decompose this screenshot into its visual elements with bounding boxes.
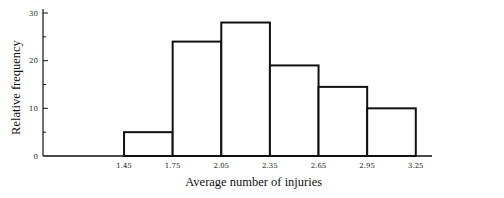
y-tick-label: 20 [29,57,38,65]
histogram-bar [270,65,319,156]
y-tick-label: 10 [29,105,38,113]
histogram-bars [43,23,432,156]
x-tick-label: 2.95 [359,162,375,170]
y-tick-label: 0 [34,153,38,161]
histogram-chart: 0102030 1.451.752.052.352.652.953.25 Rel… [0,0,504,198]
x-tick-label: 1.75 [165,162,181,170]
x-tick-label: 1.45 [116,162,132,170]
x-tick-label: 3.25 [408,162,424,170]
y-tick-label: 30 [29,10,38,18]
y-axis-label: Relative frequency [9,39,23,134]
histogram-bar [367,108,416,156]
y-ticks: 0102030 [29,10,48,161]
histogram-bar [319,87,368,156]
x-axis-label: Average number of injuries [185,175,322,189]
x-tick-label: 2.65 [311,162,327,170]
x-tick-label: 2.05 [213,162,229,170]
histogram-bar [124,132,173,156]
histogram-bar [221,23,270,156]
x-tick-label: 2.35 [262,162,278,170]
histogram-bar [173,42,222,156]
x-ticks: 1.451.752.052.352.652.953.25 [116,162,423,170]
